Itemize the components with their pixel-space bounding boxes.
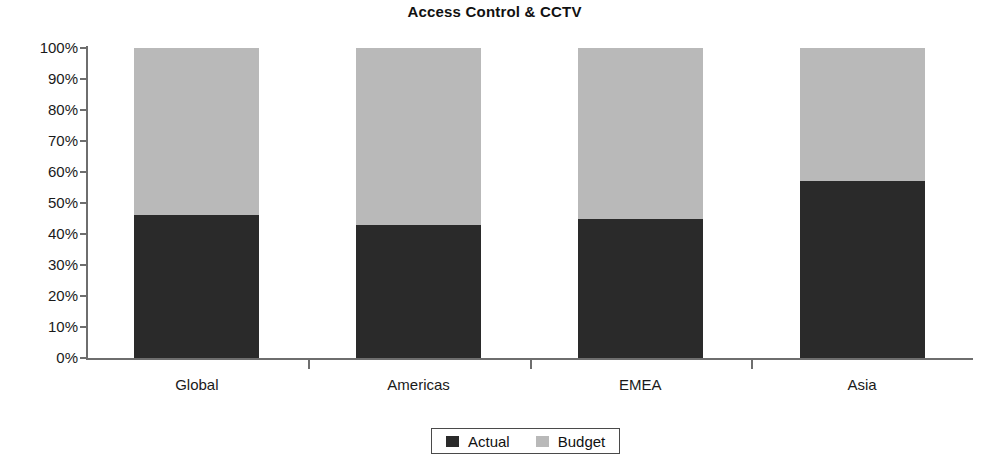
x-axis-tick-marks	[86, 360, 973, 370]
chart-legend: ActualBudget	[431, 428, 620, 454]
x-axis-category-label: EMEA	[530, 376, 750, 394]
bar-group	[134, 48, 259, 358]
bar-group	[356, 48, 481, 358]
legend-entry: Budget	[536, 434, 606, 449]
x-axis-category-labels: GlobalAmericasEMEAAsia	[86, 376, 973, 400]
bar-segment-actual	[134, 215, 259, 358]
plot-area	[86, 48, 973, 358]
legend-label: Actual	[468, 434, 510, 449]
y-axis-tick-marks	[0, 48, 90, 358]
bar-group	[800, 48, 925, 358]
legend-entry: Actual	[446, 434, 510, 449]
chart-container: Access Control & CCTV 100%90%80%70%60%50…	[0, 0, 989, 476]
legend-label: Budget	[558, 434, 606, 449]
x-axis-tick-mark	[530, 360, 532, 369]
legend-swatch-icon	[536, 436, 549, 447]
bar-segment-budget	[800, 48, 925, 181]
bar-segment-actual	[578, 219, 703, 359]
bar-segment-actual	[356, 225, 481, 358]
x-axis-tick-mark	[308, 360, 310, 369]
x-axis-category-label: Americas	[309, 376, 529, 394]
legend-swatch-icon	[446, 436, 459, 447]
bar-group	[578, 48, 703, 358]
chart-title: Access Control & CCTV	[0, 3, 989, 20]
bar-segment-budget	[134, 48, 259, 215]
x-axis-category-label: Asia	[752, 376, 972, 394]
bar-segment-actual	[800, 181, 925, 358]
bar-segment-budget	[578, 48, 703, 219]
bar-segment-budget	[356, 48, 481, 225]
x-axis-category-label: Global	[87, 376, 307, 394]
x-axis-tick-mark	[751, 360, 753, 369]
